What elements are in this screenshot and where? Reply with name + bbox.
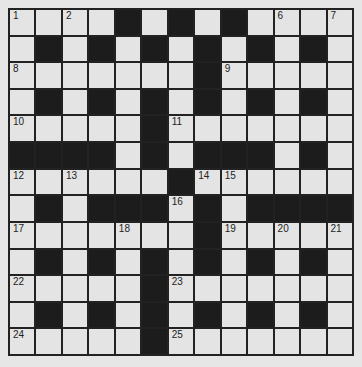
crossword-cell[interactable] [116, 329, 140, 354]
crossword-cell[interactable] [222, 90, 246, 115]
crossword-cell[interactable] [89, 329, 113, 354]
crossword-cell[interactable] [195, 116, 219, 141]
crossword-cell[interactable] [328, 143, 352, 168]
crossword-cell[interactable]: 7 [328, 10, 352, 35]
crossword-cell[interactable] [328, 329, 352, 354]
crossword-cell[interactable]: 11 [169, 116, 193, 141]
crossword-cell[interactable] [63, 90, 87, 115]
crossword-cell[interactable] [275, 63, 299, 88]
crossword-cell[interactable] [328, 63, 352, 88]
crossword-cell[interactable] [275, 170, 299, 195]
crossword-cell[interactable] [116, 170, 140, 195]
crossword-cell[interactable] [169, 63, 193, 88]
crossword-cell[interactable] [328, 37, 352, 62]
crossword-cell[interactable] [301, 276, 325, 301]
crossword-cell[interactable] [63, 303, 87, 328]
crossword-cell[interactable] [116, 143, 140, 168]
crossword-cell[interactable] [222, 329, 246, 354]
crossword-cell[interactable] [36, 63, 60, 88]
crossword-cell[interactable] [328, 303, 352, 328]
crossword-cell[interactable] [248, 329, 272, 354]
crossword-cell[interactable] [36, 223, 60, 248]
crossword-cell[interactable] [248, 276, 272, 301]
crossword-cell[interactable] [89, 276, 113, 301]
crossword-cell[interactable]: 23 [169, 276, 193, 301]
crossword-cell[interactable]: 9 [222, 63, 246, 88]
crossword-cell[interactable] [222, 196, 246, 221]
crossword-cell[interactable] [89, 170, 113, 195]
crossword-cell[interactable] [301, 329, 325, 354]
crossword-cell[interactable] [275, 276, 299, 301]
crossword-cell[interactable]: 6 [275, 10, 299, 35]
crossword-cell[interactable]: 14 [195, 170, 219, 195]
crossword-cell[interactable]: 22 [10, 276, 34, 301]
crossword-cell[interactable] [301, 63, 325, 88]
crossword-cell[interactable] [248, 63, 272, 88]
crossword-cell[interactable]: 25 [169, 329, 193, 354]
crossword-cell[interactable] [63, 250, 87, 275]
crossword-cell[interactable]: 15 [222, 170, 246, 195]
crossword-cell[interactable] [301, 10, 325, 35]
crossword-cell[interactable] [116, 250, 140, 275]
crossword-cell[interactable] [195, 276, 219, 301]
crossword-cell[interactable] [195, 10, 219, 35]
crossword-cell[interactable] [116, 90, 140, 115]
crossword-cell[interactable] [116, 276, 140, 301]
crossword-cell[interactable] [169, 223, 193, 248]
crossword-cell[interactable] [275, 116, 299, 141]
crossword-cell[interactable] [36, 116, 60, 141]
crossword-cell[interactable] [36, 10, 60, 35]
crossword-cell[interactable]: 20 [275, 223, 299, 248]
crossword-cell[interactable] [63, 329, 87, 354]
crossword-cell[interactable]: 8 [10, 63, 34, 88]
crossword-cell[interactable]: 21 [328, 223, 352, 248]
crossword-cell[interactable] [222, 250, 246, 275]
crossword-cell[interactable] [275, 250, 299, 275]
crossword-cell[interactable]: 24 [10, 329, 34, 354]
crossword-cell[interactable] [275, 143, 299, 168]
crossword-cell[interactable] [36, 276, 60, 301]
crossword-cell[interactable] [63, 116, 87, 141]
crossword-cell[interactable] [116, 116, 140, 141]
crossword-cell[interactable]: 2 [63, 10, 87, 35]
crossword-cell[interactable]: 17 [10, 223, 34, 248]
crossword-cell[interactable] [169, 37, 193, 62]
crossword-cell[interactable]: 10 [10, 116, 34, 141]
crossword-cell[interactable] [328, 250, 352, 275]
crossword-cell[interactable] [63, 196, 87, 221]
crossword-cell[interactable] [10, 303, 34, 328]
crossword-cell[interactable] [248, 223, 272, 248]
crossword-cell[interactable] [222, 37, 246, 62]
crossword-cell[interactable] [63, 223, 87, 248]
crossword-cell[interactable] [328, 276, 352, 301]
crossword-cell[interactable] [169, 250, 193, 275]
crossword-cell[interactable] [142, 10, 166, 35]
crossword-cell[interactable] [142, 170, 166, 195]
crossword-cell[interactable] [169, 303, 193, 328]
crossword-cell[interactable] [36, 329, 60, 354]
crossword-cell[interactable] [275, 329, 299, 354]
crossword-cell[interactable] [89, 223, 113, 248]
crossword-cell[interactable] [301, 223, 325, 248]
crossword-cell[interactable] [169, 143, 193, 168]
crossword-cell[interactable] [195, 329, 219, 354]
crossword-cell[interactable] [169, 90, 193, 115]
crossword-cell[interactable]: 13 [63, 170, 87, 195]
crossword-cell[interactable] [10, 37, 34, 62]
crossword-cell[interactable] [222, 303, 246, 328]
crossword-cell[interactable] [10, 90, 34, 115]
crossword-cell[interactable]: 19 [222, 223, 246, 248]
crossword-cell[interactable]: 12 [10, 170, 34, 195]
crossword-cell[interactable] [63, 37, 87, 62]
crossword-cell[interactable] [328, 90, 352, 115]
crossword-cell[interactable] [142, 223, 166, 248]
crossword-cell[interactable] [116, 37, 140, 62]
crossword-cell[interactable] [275, 37, 299, 62]
crossword-cell[interactable] [275, 303, 299, 328]
crossword-cell[interactable] [116, 63, 140, 88]
crossword-cell[interactable] [248, 10, 272, 35]
crossword-cell[interactable]: 16 [169, 196, 193, 221]
crossword-cell[interactable] [301, 170, 325, 195]
crossword-cell[interactable] [222, 276, 246, 301]
crossword-cell[interactable] [275, 90, 299, 115]
